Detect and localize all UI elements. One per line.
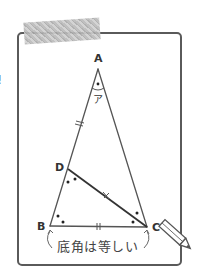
- vertex-label-b: B: [37, 221, 45, 232]
- angle-arc-a: [92, 88, 104, 90]
- arrow-right: [144, 231, 149, 248]
- vertex-label-a: A: [94, 53, 103, 64]
- caption-base-angles-equal: 底角は等しい: [57, 240, 138, 253]
- vertex-label-c: C: [152, 222, 160, 233]
- side-ac: [98, 69, 147, 227]
- pencil-icon: [159, 220, 193, 252]
- side-bc: [50, 226, 147, 227]
- diagram-canvas: !: [0, 0, 210, 279]
- triangle-figure: [0, 0, 210, 279]
- angle-dot-a: [97, 83, 100, 86]
- angle-label-a: ア: [93, 95, 103, 105]
- vertex-label-d: D: [55, 162, 64, 173]
- side-ab: [50, 69, 98, 226]
